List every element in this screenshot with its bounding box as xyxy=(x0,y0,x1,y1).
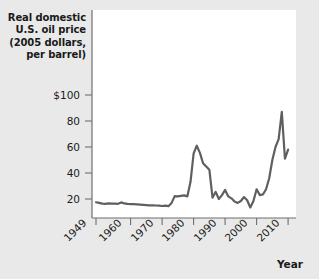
plot-area-background xyxy=(92,10,296,218)
y-tick-label-60: 60 xyxy=(34,142,80,152)
y-tick-label-40: 40 xyxy=(34,168,80,178)
y-axis-title-line-1: Real domestic xyxy=(4,12,86,24)
y-axis-title-line-2: U.S. oil price xyxy=(4,24,86,36)
y-tick-label-20: 20 xyxy=(34,194,80,204)
x-tick-marks xyxy=(96,218,288,225)
y-axis-title: Real domestic U.S. oil price (2005 dolla… xyxy=(4,12,86,62)
y-axis-title-line-4: per barrel) xyxy=(4,49,86,61)
y-tick-label-100: $100 xyxy=(34,90,80,100)
y-axis-title-line-3: (2005 dollars, xyxy=(4,37,86,49)
y-tick-label-80: 80 xyxy=(34,116,80,126)
y-tick-marks xyxy=(85,95,92,199)
oil-price-chart-figure: Real domestic U.S. oil price (2005 dolla… xyxy=(0,0,319,279)
x-axis-title: Year xyxy=(277,258,303,270)
